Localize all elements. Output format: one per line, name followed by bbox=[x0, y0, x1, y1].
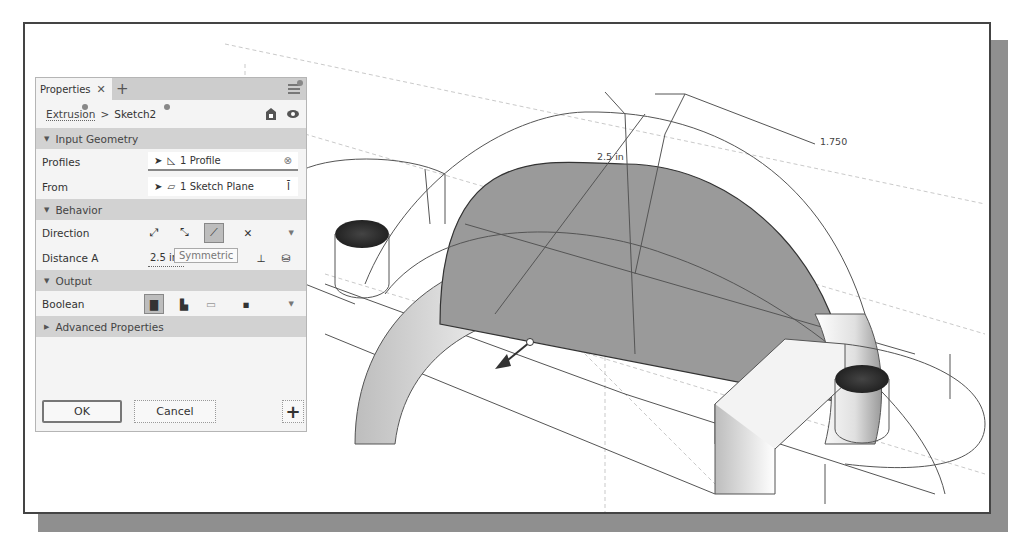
profile-icon: ◺ bbox=[167, 155, 175, 166]
direction-default-button[interactable]: ⤢ bbox=[144, 223, 164, 243]
app-window: 2.5 in 1.750 Properties ✕ + Extrusion > … bbox=[23, 22, 991, 514]
distance-dimension-label[interactable]: 2.5 in bbox=[597, 151, 624, 162]
expand-triangle-icon: ▼ bbox=[44, 206, 49, 214]
direction-label: Direction bbox=[36, 227, 142, 239]
boolean-label: Boolean bbox=[36, 298, 142, 310]
status-dot-icon bbox=[297, 80, 303, 86]
symmetric-tooltip: Symmetric bbox=[174, 248, 238, 263]
status-dot-icon bbox=[164, 104, 170, 110]
distance-a-label: Distance A bbox=[36, 252, 142, 264]
tab-properties[interactable]: Properties ✕ bbox=[36, 78, 112, 100]
profiles-value: 1 Profile bbox=[180, 155, 221, 166]
panel-tab-bar: Properties ✕ + bbox=[36, 78, 306, 100]
boolean-intersect-button[interactable]: ▭ bbox=[201, 294, 221, 314]
direction-flipped-button[interactable]: ⤡ bbox=[174, 223, 194, 243]
section-title: Input Geometry bbox=[55, 133, 138, 145]
from-selector[interactable]: ➤ ▱ 1 Sketch Plane Ī bbox=[148, 177, 298, 196]
preset-icon[interactable] bbox=[264, 107, 278, 121]
radius-dimension-label[interactable]: 1.750 bbox=[820, 136, 847, 147]
add-tab-icon[interactable]: + bbox=[116, 80, 129, 98]
profiles-row: Profiles ➤ ◺ 1 Profile ⊗ bbox=[36, 149, 306, 174]
breadcrumb-separator: > bbox=[100, 108, 109, 120]
properties-panel: Properties ✕ + Extrusion > Sketch2 ▼ Inp… bbox=[35, 77, 307, 432]
tab-title: Properties bbox=[40, 84, 91, 95]
direction-symmetric-button[interactable]: ⟋ bbox=[204, 223, 224, 243]
profiles-label: Profiles bbox=[36, 156, 142, 168]
chevron-down-icon[interactable]: ▼ bbox=[289, 300, 294, 308]
expand-triangle-icon: ▼ bbox=[44, 277, 49, 285]
close-icon[interactable]: ✕ bbox=[97, 83, 106, 96]
termination-icon[interactable]: Ī bbox=[287, 181, 290, 192]
section-output[interactable]: ▼ Output bbox=[36, 270, 306, 291]
section-title: Advanced Properties bbox=[55, 321, 163, 333]
status-dot-icon bbox=[82, 104, 88, 110]
select-arrow-icon: ➤ bbox=[154, 181, 162, 192]
breadcrumb-extrusion[interactable]: Extrusion bbox=[46, 108, 95, 121]
panel-footer: OK Cancel + bbox=[36, 393, 306, 431]
direction-row: Direction ⤢ ⤡ ⟋ ✕ ▼ bbox=[36, 220, 306, 245]
direction-asymmetric-button[interactable]: ✕ bbox=[238, 223, 258, 243]
expand-triangle-icon: ▼ bbox=[44, 135, 49, 143]
to-surface-icon[interactable]: ⊥ bbox=[251, 248, 271, 268]
ok-button[interactable]: OK bbox=[42, 400, 122, 423]
breadcrumb: Extrusion > Sketch2 bbox=[36, 100, 306, 128]
distance-a-row: Distance A 2.5 in Symmetric ⊥ ⛁ bbox=[36, 245, 306, 270]
expand-triangle-icon: ▶ bbox=[44, 323, 49, 331]
boolean-cut-button[interactable]: ▙ bbox=[174, 294, 194, 314]
select-arrow-icon: ➤ bbox=[154, 155, 162, 166]
section-advanced-properties[interactable]: ▶ Advanced Properties bbox=[36, 316, 306, 337]
boolean-new-solid-button[interactable]: ▪ bbox=[236, 294, 256, 314]
from-value: 1 Sketch Plane bbox=[180, 181, 254, 192]
breadcrumb-sketch[interactable]: Sketch2 bbox=[114, 108, 156, 120]
cancel-button[interactable]: Cancel bbox=[134, 400, 216, 423]
from-label: From bbox=[36, 181, 142, 193]
profiles-selector[interactable]: ➤ ◺ 1 Profile ⊗ bbox=[148, 152, 298, 171]
from-row: From ➤ ▱ 1 Sketch Plane Ī bbox=[36, 174, 306, 199]
section-title: Output bbox=[55, 275, 91, 287]
section-behavior[interactable]: ▼ Behavior bbox=[36, 199, 306, 220]
boolean-row: Boolean ▇ ▙ ▭ ▪ ▼ bbox=[36, 291, 306, 316]
section-title: Behavior bbox=[55, 204, 102, 216]
sketch-plane-icon: ▱ bbox=[167, 181, 175, 192]
section-input-geometry[interactable]: ▼ Input Geometry bbox=[36, 128, 306, 149]
measure-icon[interactable]: ⛁ bbox=[276, 248, 296, 268]
clear-icon[interactable]: ⊗ bbox=[284, 155, 292, 166]
boolean-join-button[interactable]: ▇ bbox=[144, 294, 164, 314]
chevron-down-icon[interactable]: ▼ bbox=[289, 229, 294, 237]
apply-add-button[interactable]: + bbox=[282, 400, 304, 423]
eye-icon[interactable] bbox=[286, 109, 300, 119]
